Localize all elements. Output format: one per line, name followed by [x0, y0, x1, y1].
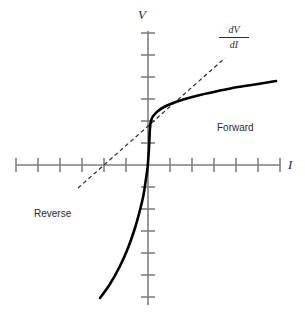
slope-annotation: dV dI: [217, 24, 251, 50]
slope-numerator: dV: [217, 24, 251, 37]
diode-iv-characteristic-figure: V I Forward Reverse dV dI: [0, 0, 305, 320]
diode-characteristic-curve: [100, 81, 276, 298]
reverse-region-label: Reverse: [34, 209, 71, 219]
plot-canvas: [0, 0, 305, 320]
x-axis-label: I: [288, 158, 292, 171]
forward-region-label: Forward: [217, 123, 254, 133]
y-axis-label: V: [138, 8, 146, 21]
slope-denominator: dI: [217, 38, 251, 51]
